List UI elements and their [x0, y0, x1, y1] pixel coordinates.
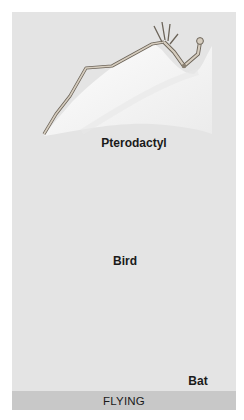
flying-figure-panel: Pterodactyl Bird Bat FLYING	[12, 12, 236, 410]
figure-title-bar: FLYING	[12, 391, 236, 410]
wing-illustrations	[12, 12, 236, 410]
bird-label: Bird	[113, 254, 137, 268]
pterodactyl-wing-illustration	[44, 22, 212, 136]
figure-title: FLYING	[103, 395, 145, 407]
bat-label: Bat	[188, 374, 207, 388]
pterodactyl-label: Pterodactyl	[101, 136, 166, 150]
